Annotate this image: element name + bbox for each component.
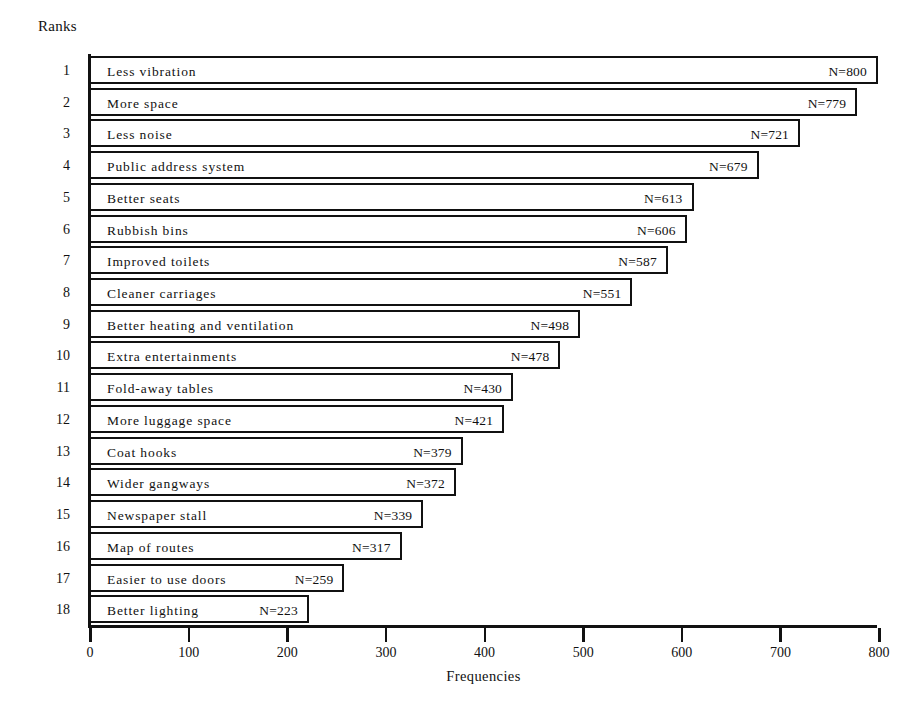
bar-value-label: N=800 — [828, 58, 867, 86]
rank-number: 16 — [30, 531, 70, 563]
bar-category-label: Wider gangways — [107, 470, 210, 498]
bar-category-label: More space — [107, 90, 179, 118]
bar: Less vibrationN=800 — [89, 56, 878, 84]
rank-row: 17Easier to use doorsN=259 — [0, 563, 915, 595]
bar-value-label: N=223 — [259, 597, 298, 625]
bar-value-label: N=421 — [455, 407, 494, 435]
bar-category-label: Rubbish bins — [107, 217, 189, 245]
x-axis-tick-label: 800 — [849, 645, 909, 661]
bar: Less noiseN=721 — [89, 119, 800, 147]
rank-row: 7Improved toiletsN=587 — [0, 245, 915, 277]
x-axis-tick — [188, 628, 191, 642]
rank-row: 10Extra entertainmentsN=478 — [0, 340, 915, 372]
bar-value-label: N=551 — [583, 280, 622, 308]
rank-row: 4Public address systemN=679 — [0, 150, 915, 182]
x-axis-tick-label: 400 — [455, 645, 515, 661]
bar: Better heating and ventilationN=498 — [89, 310, 580, 338]
bar: Map of routesN=317 — [89, 532, 402, 560]
bar-value-label: N=339 — [374, 502, 413, 530]
bar-category-label: Better heating and ventilation — [107, 312, 294, 340]
x-axis-tick — [878, 628, 881, 642]
bar: Rubbish binsN=606 — [89, 215, 687, 243]
x-axis-tick-label: 500 — [553, 645, 613, 661]
rank-number: 3 — [30, 118, 70, 150]
bar-category-label: Improved toilets — [107, 248, 210, 276]
bar: Cleaner carriagesN=551 — [89, 278, 632, 306]
rank-number: 14 — [30, 467, 70, 499]
x-axis-tick-label: 300 — [356, 645, 416, 661]
bar: Coat hooksN=379 — [89, 437, 463, 465]
bar-category-label: Easier to use doors — [107, 566, 226, 594]
rank-row: 2More spaceN=779 — [0, 87, 915, 119]
rank-number: 15 — [30, 499, 70, 531]
plot-area: 1Less vibrationN=8002More spaceN=7793Les… — [0, 0, 915, 714]
rank-row: 16Map of routesN=317 — [0, 531, 915, 563]
rank-number: 5 — [30, 182, 70, 214]
x-axis-tick — [286, 628, 289, 642]
bar-value-label: N=317 — [352, 534, 391, 562]
rank-number: 8 — [30, 277, 70, 309]
rank-number: 7 — [30, 245, 70, 277]
rank-row: 15Newspaper stallN=339 — [0, 499, 915, 531]
bar-value-label: N=372 — [406, 470, 445, 498]
x-axis-title: Frequencies — [0, 668, 915, 685]
bar-value-label: N=779 — [808, 90, 847, 118]
bar: Public address systemN=679 — [89, 151, 759, 179]
bar-category-label: Coat hooks — [107, 439, 177, 467]
ranked-frequencies-bar-chart: Ranks 1Less vibrationN=8002More spaceN=7… — [0, 0, 915, 714]
bar-value-label: N=430 — [463, 375, 502, 403]
rank-row: 9Better heating and ventilationN=498 — [0, 309, 915, 341]
rank-number: 9 — [30, 309, 70, 341]
bar: Newspaper stallN=339 — [89, 500, 423, 528]
rank-row: 11Fold-away tablesN=430 — [0, 372, 915, 404]
bar-category-label: Better seats — [107, 185, 180, 213]
bar-category-label: Extra entertainments — [107, 343, 237, 371]
rank-number: 17 — [30, 563, 70, 595]
bar: Better seatsN=613 — [89, 183, 694, 211]
rank-row: 14Wider gangwaysN=372 — [0, 467, 915, 499]
x-axis-title-text: Frequencies — [446, 668, 520, 684]
rank-row: 18Better lightingN=223 — [0, 594, 915, 626]
x-axis-tick — [484, 628, 487, 642]
bar: More luggage spaceN=421 — [89, 405, 504, 433]
bar-value-label: N=498 — [531, 312, 570, 340]
rank-row: 13Coat hooksN=379 — [0, 436, 915, 468]
bar-category-label: More luggage space — [107, 407, 232, 435]
x-axis-tick — [582, 628, 585, 642]
bar: Extra entertainmentsN=478 — [89, 341, 560, 369]
bar-category-label: Better lighting — [107, 597, 199, 625]
x-axis-tick — [779, 628, 782, 642]
bar-category-label: Less vibration — [107, 58, 196, 86]
rank-number: 6 — [30, 214, 70, 246]
rank-row: 8Cleaner carriagesN=551 — [0, 277, 915, 309]
rank-row: 1Less vibrationN=800 — [0, 55, 915, 87]
rank-row: 12More luggage spaceN=421 — [0, 404, 915, 436]
bar: Improved toiletsN=587 — [89, 246, 668, 274]
bar-value-label: N=721 — [750, 121, 789, 149]
rank-number: 13 — [30, 436, 70, 468]
rank-number: 12 — [30, 404, 70, 436]
rank-number: 18 — [30, 594, 70, 626]
rank-number: 10 — [30, 340, 70, 372]
bar-value-label: N=379 — [413, 439, 452, 467]
bar: Wider gangwaysN=372 — [89, 468, 456, 496]
rank-number: 2 — [30, 87, 70, 119]
value-axis-line — [88, 625, 877, 628]
rank-row: 5Better seatsN=613 — [0, 182, 915, 214]
rank-row: 6Rubbish binsN=606 — [0, 214, 915, 246]
bar: More spaceN=779 — [89, 88, 857, 116]
x-axis-tick-label: 700 — [750, 645, 810, 661]
bar-value-label: N=478 — [511, 343, 550, 371]
bar-value-label: N=613 — [644, 185, 683, 213]
x-axis-tick-label: 200 — [257, 645, 317, 661]
bar-value-label: N=587 — [618, 248, 657, 276]
x-axis-tick-label: 100 — [159, 645, 219, 661]
bar-value-label: N=606 — [637, 217, 676, 245]
bar: Better lightingN=223 — [89, 595, 309, 623]
bar: Fold-away tablesN=430 — [89, 373, 513, 401]
x-axis-tick-label: 600 — [652, 645, 712, 661]
x-axis-tick-label: 0 — [60, 645, 120, 661]
rank-number: 4 — [30, 150, 70, 182]
rank-row: 3Less noiseN=721 — [0, 118, 915, 150]
x-axis-tick — [385, 628, 388, 642]
